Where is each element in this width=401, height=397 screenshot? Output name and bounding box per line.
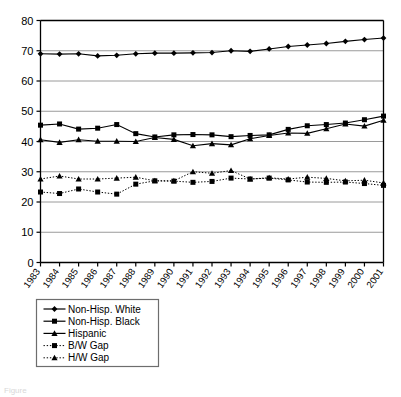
x-tick-label: 1986 (78, 266, 99, 290)
data-point-marker (342, 38, 348, 44)
data-point-marker (305, 123, 310, 128)
data-point-marker (56, 173, 62, 179)
x-tick-label: 1991 (173, 266, 194, 290)
x-tick-label: 1993 (212, 266, 233, 290)
data-point-marker (228, 167, 234, 173)
x-tick-label: 1989 (135, 266, 156, 290)
x-tick-label: 1987 (97, 266, 118, 290)
data-point-marker (210, 179, 215, 184)
series-1 (38, 35, 387, 59)
data-point-marker (76, 186, 81, 191)
data-point-marker (114, 122, 119, 127)
data-point-marker (361, 177, 367, 183)
data-point-marker (38, 190, 43, 195)
x-tick-label: 1998 (307, 266, 328, 290)
data-point-marker (76, 127, 81, 132)
data-point-marker (95, 53, 101, 59)
data-point-marker (38, 51, 44, 57)
y-tick-label: 80 (21, 15, 33, 27)
data-point-marker (133, 131, 138, 136)
legend-label: B/W Gap (68, 340, 109, 351)
data-point-marker (52, 319, 57, 324)
data-point-marker (190, 132, 195, 137)
data-point-marker (304, 42, 310, 48)
x-tick-label: 2000 (345, 266, 366, 290)
data-point-marker (76, 51, 82, 57)
y-tick-label: 60 (21, 75, 33, 87)
data-point-marker (57, 51, 63, 57)
data-point-marker (228, 48, 234, 54)
data-point-marker (114, 192, 119, 197)
x-tick-label: 1992 (193, 266, 214, 290)
y-tick-label: 70 (21, 45, 33, 57)
y-tick-label: 30 (21, 166, 33, 178)
data-point-marker (229, 134, 234, 139)
data-point-marker (362, 37, 368, 43)
data-point-marker (209, 170, 215, 176)
x-tick-label: 1985 (59, 266, 80, 290)
data-point-marker (57, 191, 62, 196)
y-tick-label: 40 (21, 136, 33, 148)
data-point-marker (380, 180, 386, 186)
data-point-marker (114, 52, 120, 58)
data-point-marker (210, 132, 215, 137)
figure-caption: Figure (4, 379, 27, 397)
legend-label: Hispanic (68, 328, 106, 339)
data-point-marker (305, 180, 310, 185)
data-point-marker (285, 44, 291, 50)
data-point-marker (190, 180, 195, 185)
y-tick-label: 10 (21, 226, 33, 238)
legend-label: Non-Hisp. White (68, 304, 141, 315)
data-point-marker (229, 176, 234, 181)
x-tick-label: 1983 (21, 266, 42, 290)
data-point-marker (37, 176, 43, 182)
legend-label: Non-Hisp. Black (68, 316, 141, 327)
data-point-marker (247, 48, 253, 54)
x-tick-label: 1988 (116, 266, 137, 290)
data-point-marker (57, 121, 62, 126)
legend-label: H/W Gap (68, 352, 110, 363)
x-tick-label: 1990 (154, 266, 175, 290)
figure-caption-text: Figure (4, 386, 27, 395)
data-point-marker (95, 126, 100, 131)
x-tick-label: 1996 (269, 266, 290, 290)
data-point-marker (95, 190, 100, 195)
x-tick-label: 2001 (364, 266, 385, 290)
data-point-marker (323, 41, 329, 47)
x-tick-label: 1984 (40, 266, 61, 290)
data-point-marker (38, 123, 43, 128)
y-tick-label: 20 (21, 196, 33, 208)
data-point-marker (37, 137, 43, 143)
data-point-marker (52, 343, 57, 348)
x-tick-label: 1995 (250, 266, 271, 290)
data-point-marker (381, 35, 387, 41)
data-point-marker (133, 182, 138, 187)
data-point-marker (362, 117, 367, 122)
x-tick-label: 1999 (326, 266, 347, 290)
data-point-marker (133, 51, 139, 57)
x-tick-label: 1994 (231, 266, 252, 290)
y-tick-label: 50 (21, 105, 33, 117)
x-tick-label: 1997 (288, 266, 309, 290)
